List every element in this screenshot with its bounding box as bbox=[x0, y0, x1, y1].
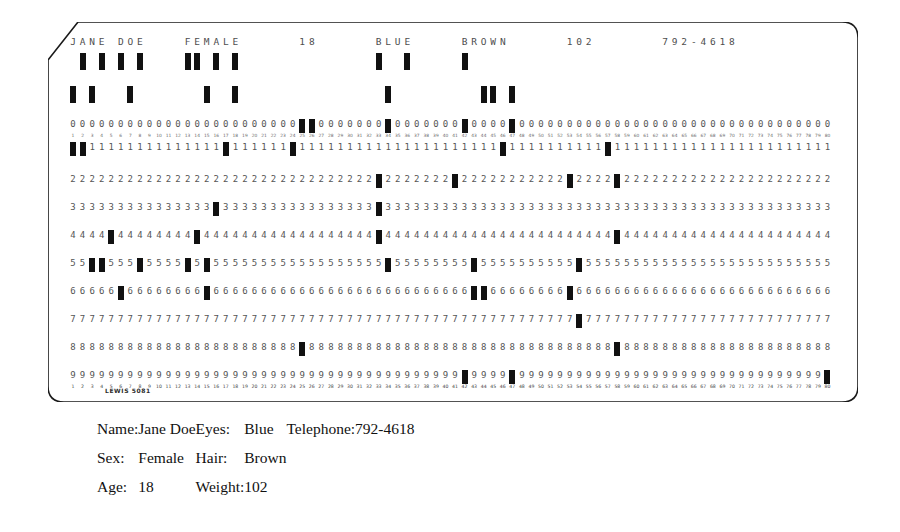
digit-glyph: 3 bbox=[260, 202, 269, 212]
digit-glyph: 2 bbox=[699, 174, 708, 184]
column-number: 13 bbox=[183, 384, 192, 389]
digit-glyph: 9 bbox=[661, 370, 670, 380]
digit-glyph: 3 bbox=[116, 202, 125, 212]
column-number: 29 bbox=[336, 384, 345, 389]
digit-glyph: 6 bbox=[403, 286, 412, 296]
digit-glyph: 6 bbox=[279, 286, 288, 296]
digit-glyph: 0 bbox=[231, 119, 240, 129]
card-content-area: JANE DOEFEMALE18BLUEBROWN102792-4618 000… bbox=[48, 22, 858, 402]
digit-glyph: 1 bbox=[813, 142, 822, 152]
digit-glyph: 5 bbox=[451, 258, 460, 268]
column-number: 22 bbox=[269, 384, 278, 389]
digit-glyph: 3 bbox=[345, 202, 354, 212]
digit-glyph: 2 bbox=[422, 174, 431, 184]
digit-glyph: 7 bbox=[365, 314, 374, 324]
digit-glyph: 1 bbox=[575, 142, 584, 152]
digit-glyph: 0 bbox=[412, 119, 421, 129]
digit-glyph: 6 bbox=[88, 286, 97, 296]
digit-glyph: 6 bbox=[431, 286, 440, 296]
digit-glyph: 5 bbox=[193, 258, 202, 268]
digit-glyph: 0 bbox=[556, 119, 565, 129]
digit-glyph: 7 bbox=[326, 314, 335, 324]
punch-hole: 8 bbox=[299, 342, 305, 356]
digit-glyph: 4 bbox=[441, 230, 450, 240]
digit-glyph: 8 bbox=[546, 342, 555, 352]
digit-glyph: 8 bbox=[365, 342, 374, 352]
digit-glyph: 3 bbox=[107, 202, 116, 212]
digit-glyph: 1 bbox=[183, 142, 192, 152]
digit-glyph: 4 bbox=[451, 230, 460, 240]
column-number: 35 bbox=[393, 133, 402, 138]
digit-glyph: 0 bbox=[260, 119, 269, 129]
digit-glyph: 6 bbox=[556, 286, 565, 296]
digit-glyph: 5 bbox=[174, 258, 183, 268]
digit-glyph: 8 bbox=[403, 342, 412, 352]
digit-glyph: 3 bbox=[565, 202, 574, 212]
digit-glyph: 5 bbox=[479, 258, 488, 268]
digit-glyph: 0 bbox=[183, 119, 192, 129]
digit-glyph: 4 bbox=[460, 230, 469, 240]
digit-glyph: 0 bbox=[479, 119, 488, 129]
digit-glyph: 9 bbox=[279, 370, 288, 380]
punch-hole bbox=[204, 86, 210, 103]
digit-glyph: 2 bbox=[546, 174, 555, 184]
column-number: 71 bbox=[737, 384, 746, 389]
punch-hole bbox=[232, 53, 238, 70]
digit-glyph: 5 bbox=[355, 258, 364, 268]
digit-glyph: 3 bbox=[355, 202, 364, 212]
digit-glyph: 2 bbox=[508, 174, 517, 184]
digit-glyph: 9 bbox=[536, 370, 545, 380]
printed-char: J bbox=[69, 36, 78, 47]
digit-glyph: 8 bbox=[622, 342, 631, 352]
digit-glyph: 9 bbox=[575, 370, 584, 380]
caption-label: Eyes: bbox=[196, 420, 245, 449]
digit-glyph: 5 bbox=[260, 258, 269, 268]
digit-glyph: 6 bbox=[680, 286, 689, 296]
digit-glyph: 9 bbox=[670, 370, 679, 380]
digit-glyph: 6 bbox=[345, 286, 354, 296]
digit-glyph: 9 bbox=[470, 370, 479, 380]
column-number: 34 bbox=[384, 384, 393, 389]
digit-glyph: 4 bbox=[431, 230, 440, 240]
printed-char: O bbox=[126, 36, 135, 47]
column-number: 10 bbox=[154, 133, 163, 138]
digit-glyph: 2 bbox=[794, 174, 803, 184]
column-number: 49 bbox=[527, 133, 536, 138]
digit-glyph: 0 bbox=[365, 119, 374, 129]
digit-glyph: 2 bbox=[813, 174, 822, 184]
digit-glyph: 7 bbox=[384, 314, 393, 324]
digit-glyph: 4 bbox=[651, 230, 660, 240]
digit-glyph: 2 bbox=[69, 174, 78, 184]
printed-char: E bbox=[231, 36, 240, 47]
column-number: 57 bbox=[603, 133, 612, 138]
digit-glyph: 1 bbox=[536, 142, 545, 152]
digit-glyph: 4 bbox=[355, 230, 364, 240]
digit-glyph: 2 bbox=[88, 174, 97, 184]
column-number: 61 bbox=[642, 133, 651, 138]
digit-glyph: 2 bbox=[460, 174, 469, 184]
digit-glyph: 4 bbox=[603, 230, 612, 240]
punch-hole: 4 bbox=[614, 230, 620, 244]
printed-char: 0 bbox=[575, 36, 584, 47]
digit-glyph: 0 bbox=[813, 119, 822, 129]
column-number: 6 bbox=[116, 133, 125, 138]
printed-char: 6 bbox=[708, 36, 717, 47]
column-number: 39 bbox=[431, 384, 440, 389]
column-number: 15 bbox=[202, 384, 211, 389]
digit-glyph: 4 bbox=[154, 230, 163, 240]
digit-glyph: 4 bbox=[345, 230, 354, 240]
punch-hole: 1 bbox=[290, 142, 296, 156]
digit-glyph: 1 bbox=[804, 142, 813, 152]
digit-glyph: 5 bbox=[317, 258, 326, 268]
caption-value: Jane Doe bbox=[138, 420, 195, 449]
digit-glyph: 2 bbox=[412, 174, 421, 184]
digit-glyph: 2 bbox=[747, 174, 756, 184]
digit-glyph: 2 bbox=[97, 174, 106, 184]
digit-glyph: 4 bbox=[164, 230, 173, 240]
digit-glyph: 5 bbox=[603, 258, 612, 268]
digit-glyph: 8 bbox=[756, 342, 765, 352]
digit-glyph: 0 bbox=[126, 119, 135, 129]
digit-glyph: 7 bbox=[642, 314, 651, 324]
digit-glyph: 7 bbox=[202, 314, 211, 324]
digit-glyph: 0 bbox=[718, 119, 727, 129]
